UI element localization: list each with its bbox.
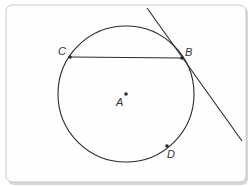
geometry-diagram: ABCD [0,0,250,186]
point-c-label: C [58,45,66,57]
point-d-label: D [167,148,175,160]
point-a-label: A [115,96,123,108]
point-a-dot [124,92,128,96]
point-b-label: B [185,46,192,58]
point-c-dot [68,55,72,59]
point-b-dot [180,56,184,60]
